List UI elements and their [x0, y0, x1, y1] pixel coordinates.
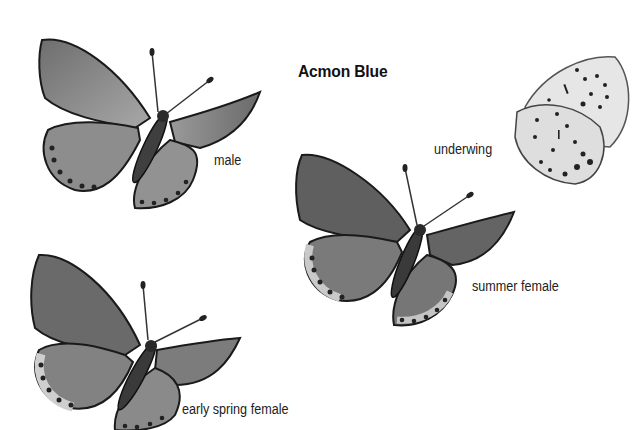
underwing-illustration — [505, 52, 640, 192]
summer-female-butterfly-illustration — [292, 150, 517, 330]
male-butterfly-illustration — [30, 30, 270, 220]
label-early-spring-female: early spring female — [182, 401, 288, 417]
label-male: male — [214, 152, 241, 168]
plate-title: Acmon Blue — [298, 62, 387, 82]
illustration-plate: Acmon Blue — [0, 0, 640, 430]
label-summer-female: summer female — [472, 278, 559, 294]
